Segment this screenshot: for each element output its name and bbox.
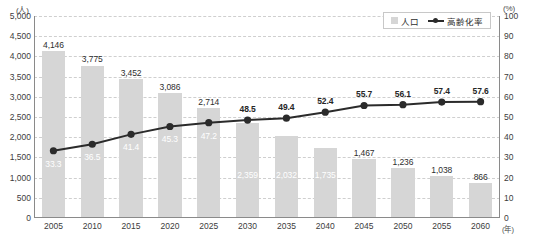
left-axis-tick: 2,000 [1,132,31,142]
right-axis-tick: 80 [504,51,532,61]
left-axis-tick: 3,500 [1,72,31,82]
right-axis-tick: 70 [504,72,532,82]
right-axis-tick: 90 [504,31,532,41]
left-axis-tick: 500 [1,193,31,203]
right-axis-tick: 40 [504,132,532,142]
x-axis-tick: 2030 [238,221,257,231]
x-axis-tick-labels: 2005201020152020202520302035204020452050… [34,221,500,239]
right-axis-tick-labels: 0102030405060708090100 [504,16,534,218]
left-axis-tick: 4,000 [1,51,31,61]
x-axis-tick: 2005 [44,221,63,231]
plot-frame [34,16,500,218]
right-axis-tick: 10 [504,193,532,203]
x-axis-tick: 2045 [355,221,374,231]
left-axis-tick: 1,000 [1,173,31,183]
left-axis-tick: 3,000 [1,92,31,102]
right-axis-tick: 100 [504,11,532,21]
left-axis-tick-labels: 05001,0001,5002,0002,5003,0003,5004,0004… [0,16,31,218]
left-axis-tick: 5,000 [1,11,31,21]
x-axis-tick: 2055 [432,221,451,231]
right-axis-tick: 50 [504,112,532,122]
x-axis-tick: 2040 [316,221,335,231]
chart-legend: 人口 高齢化率 [383,12,491,29]
line-marker-icon [428,17,444,24]
x-axis-tick: 2020 [160,221,179,231]
x-axis-unit-label: (年) [502,223,514,234]
right-axis-tick: 20 [504,173,532,183]
legend-label-population: 人口 [401,15,419,27]
x-axis-tick: 2050 [393,221,412,231]
population-aging-rate-chart: (人) (%) 05001,0001,5002,0002,5003,0003,5… [0,0,534,248]
left-axis-tick: 0 [1,213,31,223]
left-axis-tick: 2,500 [1,112,31,122]
x-axis-tick: 2060 [471,221,490,231]
x-axis-tick: 2015 [122,221,141,231]
legend-item-aging-rate[interactable]: 高齢化率 [428,15,483,27]
x-axis-tick: 2010 [83,221,102,231]
bar-swatch-icon [391,17,398,24]
x-axis-tick: 2025 [199,221,218,231]
legend-item-population[interactable]: 人口 [391,15,419,27]
left-axis-tick: 1,500 [1,152,31,162]
right-axis-tick: 60 [504,92,532,102]
x-axis-tick: 2035 [277,221,296,231]
right-axis-tick: 0 [504,213,532,223]
right-axis-tick: 30 [504,152,532,162]
left-axis-tick: 4,500 [1,31,31,41]
plot-area: 4,1463,7753,4523,0862,7142,3592,0321,735… [34,16,500,218]
legend-label-aging-rate: 高齢化率 [447,15,483,27]
